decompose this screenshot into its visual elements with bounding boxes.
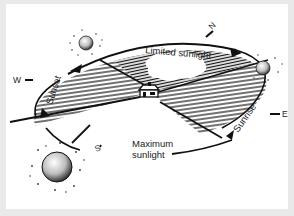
compass-north: N — [206, 20, 217, 31]
compass-east: E — [282, 109, 288, 119]
sun-path-diagram: Limited sunlight Maximum sunlight Sunset… — [0, 0, 294, 216]
maximum-sunlight-label-line2: sunlight — [132, 149, 165, 160]
sun-icon — [69, 29, 102, 55]
maximum-sunlight-label-line1: Maximum — [132, 138, 173, 149]
compass-west: W — [13, 75, 21, 85]
compass-south: S — [93, 142, 102, 153]
